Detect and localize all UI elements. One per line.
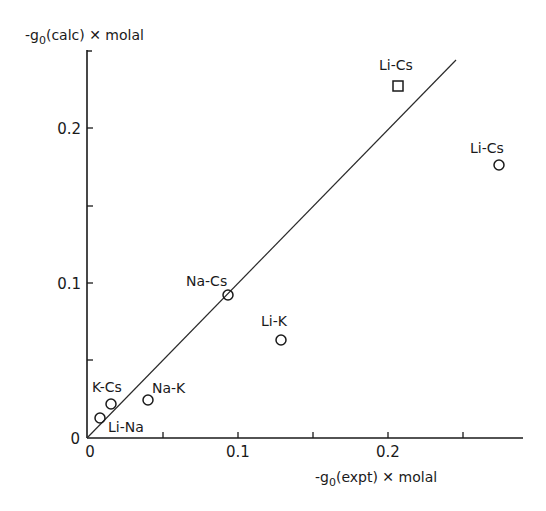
y-axis-title: -g0(calc) ✕ molal bbox=[25, 27, 144, 47]
y-tick-label-0: 0 bbox=[70, 430, 80, 448]
point-label-k-cs: K-Cs bbox=[92, 379, 122, 395]
x-tick-label-0.2: 0.2 bbox=[376, 443, 400, 461]
point-label-li-na: Li-Na bbox=[108, 419, 144, 435]
reference-line-y-equals-x bbox=[87, 60, 456, 438]
data-point-li-na bbox=[95, 413, 105, 423]
data-point-li-cs-square bbox=[393, 81, 403, 91]
data-point-na-k bbox=[143, 395, 153, 405]
x-ticks bbox=[163, 432, 463, 438]
data-point-k-cs bbox=[106, 399, 116, 409]
point-label-na-k: Na-K bbox=[152, 380, 186, 396]
y-ticks bbox=[87, 128, 93, 360]
point-label-li-k: Li-K bbox=[261, 313, 288, 329]
point-label-li-cs-circle: Li-Cs bbox=[470, 140, 504, 156]
point-label-na-cs: Na-Cs bbox=[186, 273, 227, 289]
data-point-na-cs bbox=[223, 290, 233, 300]
data-point-li-k bbox=[276, 335, 286, 345]
data-point-li-cs-circle bbox=[494, 160, 504, 170]
x-tick-label-0.1: 0.1 bbox=[226, 443, 250, 461]
point-label-li-cs-square: Li-Cs bbox=[379, 57, 413, 73]
x-tick-label-0: 0 bbox=[85, 443, 95, 461]
y-tick-label-0.1: 0.1 bbox=[57, 275, 81, 293]
x-axis-title: -g0(expt) ✕ molal bbox=[315, 469, 437, 489]
scatter-chart: 0.2 0.1 0 0 0.1 0.2 -g0(calc) ✕ molal -g… bbox=[0, 0, 546, 511]
y-tick-label-0.2: 0.2 bbox=[57, 120, 81, 138]
